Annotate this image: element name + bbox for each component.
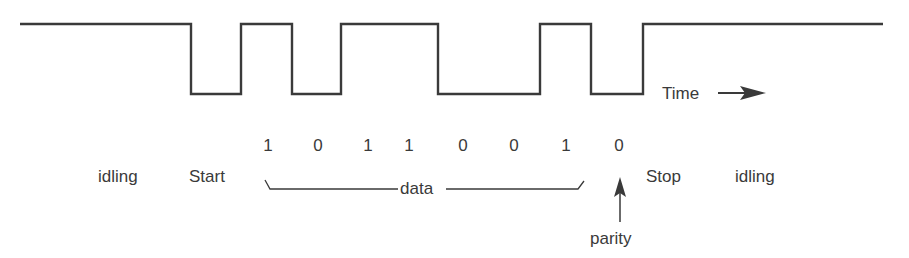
bit-value: 1 — [263, 136, 272, 155]
parity-label: parity — [590, 229, 632, 248]
stop-bit-label: Stop — [646, 167, 681, 186]
right-arrow-icon — [718, 86, 766, 100]
bit-value: 0 — [614, 136, 623, 155]
bit-value: 0 — [313, 136, 322, 155]
bit-value: 1 — [404, 136, 413, 155]
bit-values: 10110010 — [263, 136, 623, 155]
bit-value: 1 — [561, 136, 570, 155]
bit-value: 0 — [458, 136, 467, 155]
time-axis-label: Time — [662, 84, 699, 103]
bit-value: 0 — [509, 136, 518, 155]
start-bit-label: Start — [189, 167, 225, 186]
bit-value: 1 — [363, 136, 372, 155]
idling-left-label: idling — [98, 167, 138, 186]
idling-right-label: idling — [735, 167, 775, 186]
signal-waveform — [20, 24, 883, 94]
serial-frame-diagram: Time 10110010 idling Start Stop idling d… — [0, 0, 909, 258]
data-field-label: data — [400, 179, 434, 198]
up-arrow-icon — [614, 177, 626, 222]
